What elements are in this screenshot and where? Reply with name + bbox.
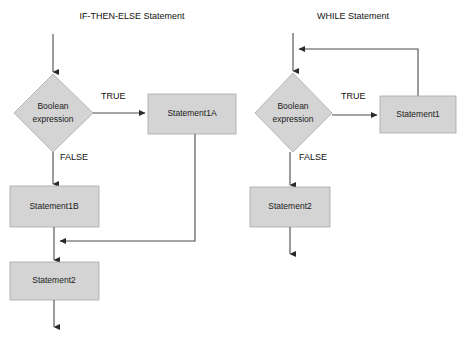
if-false-label: FALSE xyxy=(60,152,88,162)
if-true-label: TRUE xyxy=(101,91,126,101)
while-decision-label-line2: expression xyxy=(272,114,313,124)
while-loopback-path xyxy=(299,49,418,96)
while-true-label: TRUE xyxy=(341,91,366,101)
while-statement1-label: Statement1 xyxy=(396,109,440,119)
flowchart-canvas: IF-THEN-ELSE Statement Boolean expressio… xyxy=(0,0,470,345)
while-title: WHILE Statement xyxy=(317,11,390,21)
if-decision-label-line1: Boolean xyxy=(37,101,68,111)
if-statement1a-label: Statement1A xyxy=(167,108,216,118)
if-statement1b-label: Statement1B xyxy=(29,201,78,211)
flowchart-page: IF-THEN-ELSE Statement Boolean expressio… xyxy=(0,0,470,345)
if-decision-label-line2: expression xyxy=(32,114,73,124)
while-decision-label-line1: Boolean xyxy=(277,101,308,111)
if-then-else-title: IF-THEN-ELSE Statement xyxy=(79,11,185,21)
while-false-label: FALSE xyxy=(299,152,327,162)
while-decision-diamond xyxy=(255,73,332,152)
if-statement2-label: Statement2 xyxy=(32,275,76,285)
if-decision-diamond xyxy=(14,74,93,152)
while-statement2-label: Statement2 xyxy=(268,201,312,211)
